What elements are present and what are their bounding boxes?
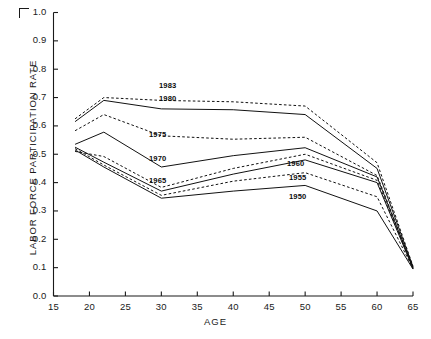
axis-tick-marks (54, 13, 414, 297)
series-line-1975 (75, 115, 413, 268)
series-label-1965: 1965 (149, 176, 166, 185)
series-label-1960: 1960 (287, 159, 304, 168)
series-line-1983 (75, 98, 413, 267)
axis-lines (54, 13, 414, 297)
series-label-1983: 1983 (159, 81, 176, 90)
series-label-1950: 1950 (289, 192, 306, 201)
series-line-1965 (75, 151, 413, 268)
series-label-1955: 1955 (289, 173, 306, 182)
series-lines (75, 98, 413, 270)
series-label-1980: 1980 (159, 94, 176, 103)
chart-figure: LABOR FORCE PARTICIPATION RATE AGE 0.00.… (0, 0, 431, 339)
series-line-1960 (75, 147, 413, 268)
series-line-1970 (75, 132, 413, 268)
series-label-1970: 1970 (149, 154, 166, 163)
series-line-1980 (75, 100, 413, 266)
series-label-1975: 1975 (149, 130, 166, 139)
plot-area (0, 0, 431, 339)
